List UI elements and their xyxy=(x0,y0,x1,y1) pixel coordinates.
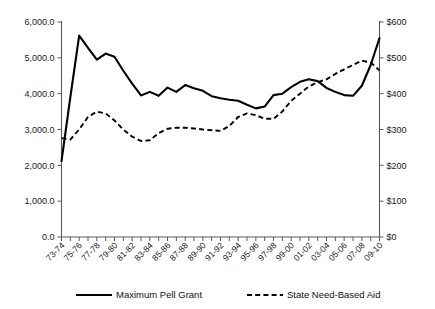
y-axis-tick-label: 5,000.0 xyxy=(24,53,54,63)
y2-axis-tick-label: $100 xyxy=(387,196,407,206)
y-axis-tick-label: 6,000.0 xyxy=(24,17,54,27)
x-axis-tick-label: 81-82 xyxy=(115,240,138,263)
x-axis-tick-label: 79-80 xyxy=(97,240,120,263)
x-axis: 73-7475-7677-7879-8081-8283-8485-8687-88… xyxy=(44,237,385,263)
x-axis-tick-label: 93-94 xyxy=(221,240,244,263)
legend-label: State Need-Based Aid xyxy=(287,289,380,300)
x-axis-tick-label: 97-98 xyxy=(256,240,279,263)
data-series-group xyxy=(62,36,380,161)
y2-axis-tick-label: $200 xyxy=(387,161,407,171)
x-axis-tick-label: 99-00 xyxy=(274,240,297,263)
x-axis-tick-label: 05-06 xyxy=(327,240,350,263)
y-axis-tick-label: 0.0 xyxy=(42,232,55,242)
x-axis-tick-label: 03-04 xyxy=(309,240,332,263)
chart-legend: Maximum Pell GrantState Need-Based Aid xyxy=(76,289,380,300)
line-chart: 0.01,000.02,000.03,000.04,000.05,000.06,… xyxy=(0,0,435,309)
x-axis-tick-label: 83-84 xyxy=(132,240,155,263)
y2-axis-tick-label: $500 xyxy=(387,53,407,63)
y2-axis-tick-label: $300 xyxy=(387,125,407,135)
left-y-axis: 0.01,000.02,000.03,000.04,000.05,000.06,… xyxy=(24,17,61,242)
chart-container: 0.01,000.02,000.03,000.04,000.05,000.06,… xyxy=(0,0,435,309)
y-axis-tick-label: 1,000.0 xyxy=(24,196,54,206)
y2-axis-tick-label: $0 xyxy=(387,232,397,242)
y-axis-tick-label: 2,000.0 xyxy=(24,161,54,171)
x-axis-tick-label: 91-92 xyxy=(203,240,226,263)
x-axis-tick-label: 75-76 xyxy=(62,240,85,263)
x-axis-tick-label: 89-90 xyxy=(185,240,208,263)
legend-label: Maximum Pell Grant xyxy=(116,289,202,300)
x-axis-tick-label: 01-02 xyxy=(291,240,314,263)
y2-axis-tick-label: $400 xyxy=(387,89,407,99)
x-axis-tick-label: 87-88 xyxy=(168,240,191,263)
x-axis-tick-label: 77-78 xyxy=(79,240,102,263)
x-axis-tick-label: 85-86 xyxy=(150,240,173,263)
right-y-axis: $0$100$200$300$400$500$600 xyxy=(380,17,407,242)
y-axis-tick-label: 4,000.0 xyxy=(24,89,54,99)
y2-axis-tick-label: $600 xyxy=(387,17,407,27)
series-line-solid xyxy=(62,36,380,161)
x-axis-tick-label: 07-08 xyxy=(344,240,367,263)
series-line-dashed xyxy=(62,61,380,141)
x-axis-tick-label: 95-96 xyxy=(238,240,261,263)
x-axis-tick-label: 73-74 xyxy=(44,240,67,263)
y-axis-tick-label: 3,000.0 xyxy=(24,125,54,135)
x-axis-tick-label: 09-10 xyxy=(362,240,385,263)
